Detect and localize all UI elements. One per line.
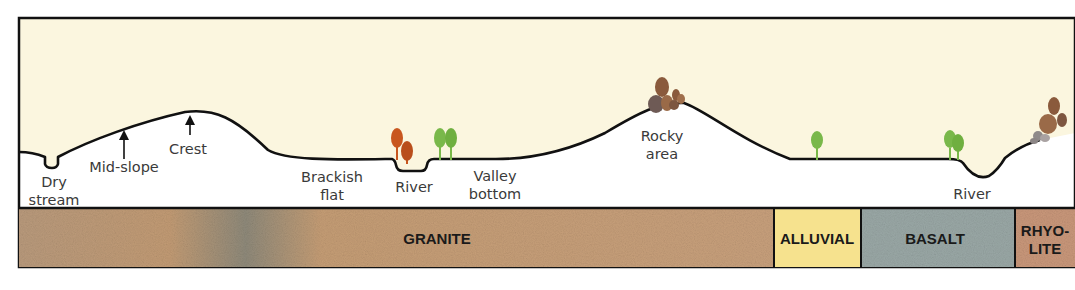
label-rocky-area-2: area bbox=[646, 146, 678, 162]
label-river-2: River bbox=[953, 186, 991, 202]
label-valley-bottom-1: Valley bbox=[473, 168, 517, 184]
label-rhyolite-2: LITE bbox=[1029, 240, 1062, 257]
label-brackish-flat-1: Brackish bbox=[301, 169, 363, 185]
label-valley-bottom-2: bottom bbox=[469, 186, 521, 202]
label-alluvial: ALLUVIAL bbox=[780, 230, 854, 247]
label-basalt: BASALT bbox=[905, 230, 965, 247]
label-river-1: River bbox=[395, 179, 433, 195]
label-brackish-flat-2: flat bbox=[320, 187, 344, 203]
label-dry-stream-1: Dry bbox=[41, 174, 67, 190]
landscape-diagram: Dry stream Mid-slope Crest Brackish flat… bbox=[0, 0, 1075, 290]
label-rocky-area-1: Rocky bbox=[641, 128, 684, 144]
label-dry-stream-2: stream bbox=[29, 192, 80, 208]
label-granite: GRANITE bbox=[403, 230, 471, 247]
granite-layer bbox=[19, 208, 774, 267]
label-rhyolite-1: RHYO- bbox=[1021, 222, 1069, 239]
label-crest: Crest bbox=[169, 141, 207, 157]
label-mid-slope: Mid-slope bbox=[89, 159, 159, 175]
